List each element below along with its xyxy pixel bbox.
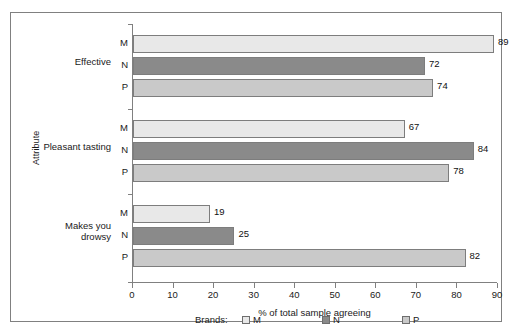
plot-area: EffectiveM89N72P74Pleasant tastingM67N84… — [132, 24, 497, 283]
bar-value-label: 84 — [478, 143, 489, 154]
category-tick-label: M — [114, 207, 128, 218]
y-axis-group-tick — [128, 24, 133, 25]
bar — [133, 79, 433, 97]
category-tick-label: M — [114, 122, 128, 133]
category-tick-label: P — [114, 251, 128, 262]
bar-value-label: 67 — [409, 121, 420, 132]
bar — [133, 120, 405, 138]
bar-value-label: 25 — [238, 228, 249, 239]
x-axis-tick-mark — [173, 283, 174, 288]
legend-title: Brands: — [195, 314, 228, 325]
category-tick-label: M — [114, 37, 128, 48]
x-axis-tick-mark — [213, 283, 214, 288]
bar-row: P78 — [133, 162, 497, 184]
bar-row: M89 — [133, 33, 497, 55]
group-label: Effective — [0, 56, 111, 67]
x-axis-tick-label: 20 — [201, 289, 225, 300]
bar-value-label: 74 — [437, 80, 448, 91]
chart-figure: Attribute EffectiveM89N72P74Pleasant tas… — [10, 12, 502, 322]
legend-item[interactable]: N — [322, 314, 340, 325]
bar-row: N25 — [133, 225, 497, 247]
legend-label: N — [333, 314, 340, 325]
bar-group: EffectiveM89N72P74 — [133, 33, 497, 99]
category-tick-label: P — [114, 81, 128, 92]
x-axis-tick-mark — [375, 283, 376, 288]
x-axis-tick-label: 30 — [242, 289, 266, 300]
bar-value-label: 89 — [498, 36, 509, 47]
x-axis-tick-label: 70 — [404, 289, 428, 300]
x-axis-tick-label: 90 — [485, 289, 509, 300]
bar-value-label: 72 — [429, 58, 440, 69]
bar-row: M19 — [133, 203, 497, 225]
legend-item[interactable]: M — [242, 314, 261, 325]
legend-swatch-icon — [402, 316, 410, 324]
x-axis-tick-label: 60 — [363, 289, 387, 300]
bar-row: N84 — [133, 140, 497, 162]
bar — [133, 35, 494, 53]
legend-item[interactable]: P — [402, 314, 419, 325]
bar-group: Makes you drowsyM19N25P82 — [133, 203, 497, 269]
bar-value-label: 78 — [453, 165, 464, 176]
bar-group: Pleasant tastingM67N84P78 — [133, 118, 497, 184]
x-axis-tick-mark — [132, 283, 133, 288]
x-axis-tick-mark — [416, 283, 417, 288]
bar-row: N72 — [133, 55, 497, 77]
x-axis-ticks: 0102030405060708090 — [132, 283, 497, 307]
legend-swatch-icon — [242, 316, 250, 324]
category-tick-label: N — [114, 59, 128, 70]
legend-label: P — [413, 314, 419, 325]
x-axis-tick-label: 10 — [161, 289, 185, 300]
bar — [133, 142, 474, 160]
bar — [133, 57, 425, 75]
y-axis-group-tick — [128, 282, 133, 283]
y-axis-title: Attribute — [19, 99, 29, 113]
x-axis-tick-label: 50 — [323, 289, 347, 300]
x-axis-tick-mark — [294, 283, 295, 288]
legend-label: M — [253, 314, 261, 325]
bar-value-label: 19 — [214, 206, 225, 217]
x-axis-tick-mark — [497, 283, 498, 288]
bar-value-label: 82 — [470, 250, 481, 261]
bar — [133, 164, 449, 182]
y-axis-group-tick — [128, 109, 133, 110]
category-tick-label: N — [114, 229, 128, 240]
group-label: Makes you drowsy — [0, 220, 111, 242]
category-tick-label: N — [114, 144, 128, 155]
x-axis-tick-mark — [335, 283, 336, 288]
x-axis-tick-label: 80 — [444, 289, 468, 300]
group-label: Pleasant tasting — [0, 141, 111, 152]
y-axis-group-tick — [128, 194, 133, 195]
x-axis-tick-mark — [254, 283, 255, 288]
x-axis-tick-label: 40 — [282, 289, 306, 300]
bar-row: P74 — [133, 77, 497, 99]
legend: Brands: MNP — [132, 312, 497, 328]
bar-row: M67 — [133, 118, 497, 140]
bar-row: P82 — [133, 247, 497, 269]
x-axis-tick-mark — [456, 283, 457, 288]
legend-swatch-icon — [322, 316, 330, 324]
bar — [133, 249, 466, 267]
bar — [133, 205, 210, 223]
x-axis-tick-label: 0 — [120, 289, 144, 300]
bar — [133, 227, 234, 245]
category-tick-label: P — [114, 166, 128, 177]
